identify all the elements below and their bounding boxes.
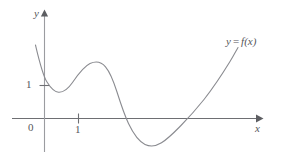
curve-equation-fx: f(x) [241, 35, 256, 47]
curve-equation-equals: = [231, 35, 241, 47]
x-axis-label: x [255, 123, 260, 134]
curve-equation-label: y=f(x) [226, 36, 256, 47]
origin-label: 0 [28, 122, 34, 133]
y-axis-tick-label-1: 1 [26, 79, 32, 90]
graph-canvas [0, 0, 282, 166]
x-axis-tick-label-1: 1 [75, 124, 81, 135]
function-graph-figure: y x 0 1 1 y=f(x) [0, 0, 282, 166]
y-axis-label: y [34, 8, 39, 19]
function-curve [36, 45, 239, 146]
y-axis-arrowhead [41, 10, 48, 17]
